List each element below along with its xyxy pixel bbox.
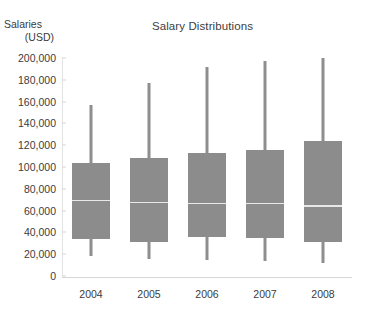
median-line [246,203,284,205]
box-iqr [130,158,168,242]
median-line [130,202,168,204]
lower-whisker [322,242,325,263]
x-axis-tick-label-2004: 2004 [72,288,110,300]
y-axis-tick-label: 120,000 [4,139,56,151]
y-axis-tick-label: 200,000 [4,52,56,64]
x-axis-tick-label-2007: 2007 [246,288,284,300]
plot-area: 020,00040,00060,00080,000100,000120,0001… [62,58,352,278]
median-line [72,200,110,202]
x-axis-tick-label-2006: 2006 [188,288,226,300]
y-axis-tick-mark [62,254,66,255]
upper-whisker [90,105,93,163]
chart-page: Salaries (USD) Salary Distributions 020,… [0,0,367,316]
y-axis-tick-label: 180,000 [4,74,56,86]
upper-whisker [206,67,209,153]
y-axis-tick-label: 40,000 [4,226,56,238]
y-axis-tick-label: 20,000 [4,248,56,260]
upper-whisker [264,61,267,149]
y-axis-tick-mark [62,123,66,124]
box-iqr [188,153,226,237]
box-plot-2007[interactable]: 2007 [246,58,284,278]
box-plot-2008[interactable]: 2008 [304,58,342,278]
lower-whisker [90,239,93,256]
y-axis-tick-label: 80,000 [4,183,56,195]
y-axis-tick-mark [62,210,66,211]
box-iqr [304,141,342,242]
x-axis-tick-label-2005: 2005 [130,288,168,300]
y-axis-tick-mark [62,232,66,233]
x-axis-tick-label-2008: 2008 [304,288,342,300]
lower-whisker [148,242,151,258]
y-axis-tick-label: 100,000 [4,161,56,173]
box-plot-2006[interactable]: 2006 [188,58,226,278]
lower-whisker [206,237,209,260]
box-iqr [246,150,284,238]
y-axis-title-line2: (USD) [4,31,54,44]
y-axis-tick-mark [62,167,66,168]
upper-whisker [322,58,325,141]
median-line [304,205,342,207]
y-axis-tick-label: 0 [4,270,56,282]
y-axis-tick-mark [62,188,66,189]
median-line [188,203,226,205]
upper-whisker [148,83,151,158]
y-axis-tick-label: 60,000 [4,205,56,217]
y-axis-tick-mark [62,145,66,146]
chart-title: Salary Distributions [0,20,367,32]
box-plot-2005[interactable]: 2005 [130,58,168,278]
y-axis-tick-mark [62,58,66,59]
y-axis-tick-mark [62,101,66,102]
y-axis-tick-label: 160,000 [4,96,56,108]
y-axis-tick-mark [62,276,66,277]
lower-whisker [264,238,267,261]
y-axis-tick-mark [62,79,66,80]
box-plot-2004[interactable]: 2004 [72,58,110,278]
y-axis-tick-label: 140,000 [4,117,56,129]
